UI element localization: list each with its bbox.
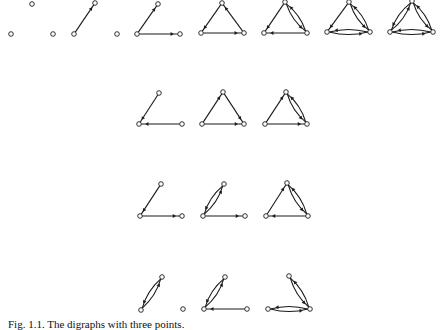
node-point <box>368 30 373 35</box>
node-point <box>30 2 35 7</box>
arc <box>350 4 368 30</box>
digraph-r4g3 <box>266 274 313 313</box>
arrow-icon <box>298 122 301 126</box>
arrow-icon <box>398 28 401 32</box>
arrow-icon <box>270 31 273 35</box>
node-point <box>180 214 185 219</box>
digraph-r2g3 <box>263 90 310 127</box>
node-point <box>266 307 271 312</box>
node-point <box>199 31 204 36</box>
arc <box>290 278 309 307</box>
node-point <box>243 214 248 219</box>
node-point <box>262 31 267 36</box>
arc <box>142 279 161 308</box>
digraph-r2g2 <box>200 90 247 127</box>
node-point <box>160 275 165 280</box>
arc <box>287 94 305 122</box>
digraph-r3g1 <box>138 182 185 219</box>
arc <box>270 309 307 312</box>
digraph-r2g1 <box>137 91 185 127</box>
digraph-r1g4 <box>199 1 247 36</box>
digraph-collection <box>9 0 436 313</box>
arc <box>204 186 222 214</box>
digraph-r1g6 <box>325 0 373 36</box>
arc <box>392 32 430 35</box>
arrow-icon <box>173 214 176 218</box>
arc <box>204 186 222 214</box>
arrow-icon <box>335 28 338 32</box>
arc <box>413 3 431 30</box>
arrow-icon <box>235 122 238 126</box>
arc <box>391 3 410 30</box>
arrow-icon <box>422 32 425 36</box>
arc <box>392 29 430 32</box>
node-point <box>93 1 98 6</box>
arrow-icon <box>272 214 275 218</box>
arc <box>142 279 161 308</box>
node-point <box>202 307 207 312</box>
node-point <box>115 32 120 37</box>
digraph-r4g2 <box>202 275 250 312</box>
arc <box>270 306 307 309</box>
node-point <box>137 122 142 127</box>
node-point <box>222 182 227 187</box>
digraph-r1g3 <box>135 2 183 37</box>
arrow-icon <box>235 31 238 35</box>
arc <box>413 3 431 30</box>
node-point <box>264 214 269 219</box>
node-point <box>156 2 161 7</box>
node-point <box>410 0 415 3</box>
node-point <box>308 307 313 312</box>
node-point <box>139 308 144 313</box>
node-point <box>159 182 164 187</box>
arrow-icon <box>299 309 302 313</box>
node-point <box>242 31 247 36</box>
arrow-icon <box>359 32 362 36</box>
node-point <box>181 307 186 312</box>
digraph-r1g2 <box>72 1 120 37</box>
node-point <box>242 122 247 127</box>
node-point <box>138 214 143 219</box>
arrow-icon <box>145 122 148 126</box>
arrow-icon <box>275 305 278 309</box>
node-point <box>200 122 205 127</box>
node-point <box>157 91 162 96</box>
node-point <box>431 30 436 35</box>
digraph-r3g3 <box>264 181 311 219</box>
node-point <box>305 122 310 127</box>
node-point <box>135 32 140 37</box>
arc <box>350 4 368 30</box>
node-point <box>285 181 290 186</box>
node-point <box>388 30 393 35</box>
digraph-r1g7 <box>388 0 436 36</box>
node-point <box>306 214 311 219</box>
figure-caption: Fig. 1.1. The digraphs with three points… <box>8 318 184 330</box>
node-point <box>201 214 206 219</box>
node-point <box>245 307 250 312</box>
arc <box>391 3 410 30</box>
node-point <box>263 122 268 127</box>
node-point <box>305 31 310 36</box>
digraph-r3g2 <box>201 182 248 219</box>
digraph-r4g1 <box>139 275 186 313</box>
digraph-r1g1 <box>9 2 56 37</box>
node-point <box>287 274 292 279</box>
node-point <box>325 30 330 35</box>
arc <box>286 4 305 31</box>
arc <box>329 29 367 32</box>
node-point <box>178 32 183 37</box>
arrow-icon <box>210 307 213 311</box>
node-point <box>284 90 289 95</box>
arc <box>286 4 305 31</box>
node-point <box>347 0 352 4</box>
node-point <box>220 1 225 6</box>
node-point <box>283 0 288 4</box>
arc <box>329 32 367 35</box>
node-point <box>72 32 77 37</box>
arrow-icon <box>171 32 174 36</box>
node-point <box>51 32 56 37</box>
arc <box>288 185 307 214</box>
node-point <box>180 122 185 127</box>
node-point <box>9 32 14 37</box>
